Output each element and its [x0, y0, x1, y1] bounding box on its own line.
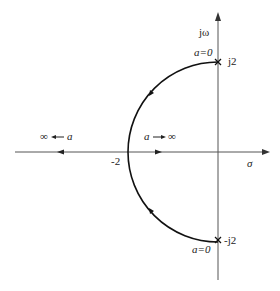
- real-axis-arrow-icon: [262, 149, 270, 155]
- bottom-a0-label: a=0: [192, 244, 210, 255]
- imag-axis-label: jω: [199, 27, 209, 38]
- breakaway-label: -2: [111, 156, 120, 167]
- right-axis-arrow-icon: [155, 150, 162, 155]
- right-infinity-symbol: ∞: [168, 131, 176, 142]
- bottom-pole-label: -j2: [224, 235, 236, 246]
- top-a0-label: a=0: [194, 47, 212, 58]
- real-axis-label: σ: [247, 158, 252, 169]
- root-locus-lower-branch: [128, 152, 218, 242]
- root-locus-plot: [0, 0, 280, 291]
- left-a-symbol: a: [67, 131, 73, 142]
- top-pole-label: j2: [228, 56, 237, 67]
- imag-axis-arrow-icon: [215, 12, 221, 21]
- left-infinity-symbol: ∞: [40, 131, 48, 142]
- left-annotation-arrow-icon: [51, 135, 56, 139]
- right-annotation-arrow-icon: [161, 135, 166, 139]
- right-a-symbol: a: [144, 131, 150, 142]
- left-axis-arrow-icon: [57, 150, 64, 155]
